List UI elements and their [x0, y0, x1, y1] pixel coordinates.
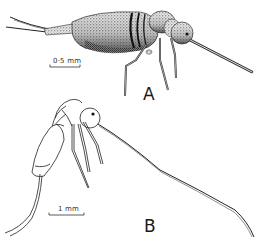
insect-a-drawing [6, 11, 252, 96]
scale-bar-a-label: 0·5 mm [53, 57, 81, 65]
scale-bar-b-label: 1 mm [58, 205, 79, 213]
insect-b-drawing [5, 99, 254, 237]
figure-illustration [0, 0, 257, 240]
panel-label-b: B [144, 216, 156, 236]
panel-label-a: A [143, 84, 155, 104]
